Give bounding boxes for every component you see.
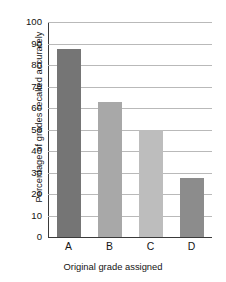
bar-chart: Percentage of grades recalled accurately… (0, 0, 226, 282)
gridline (48, 44, 212, 45)
x-tick-label: B (89, 240, 130, 253)
plot-area (48, 22, 212, 237)
y-tick-label: 80 (0, 60, 42, 70)
y-tick-label: 20 (0, 189, 42, 199)
x-tick-label: A (48, 240, 89, 253)
y-tick-label: 60 (0, 103, 42, 113)
y-tick-label: 0 (0, 232, 42, 242)
x-axis-baseline (48, 237, 212, 238)
bar-c (139, 130, 163, 238)
y-tick-label: 50 (0, 125, 42, 135)
bar-d (180, 178, 204, 237)
bar-a (57, 49, 81, 237)
x-tick-label: D (171, 240, 212, 253)
gridline (48, 22, 212, 23)
x-axis-title: Original grade assigned (0, 261, 226, 272)
y-axis-tick-labels: 0102030405060708090100 (0, 0, 46, 282)
x-axis-tick-labels: ABCD (48, 240, 212, 256)
x-tick-label: C (130, 240, 171, 253)
y-tick-label: 10 (0, 211, 42, 221)
y-tick-label: 40 (0, 146, 42, 156)
y-tick-label: 30 (0, 168, 42, 178)
y-tick-label: 90 (0, 39, 42, 49)
y-tick-label: 100 (0, 17, 42, 27)
bar-b (98, 102, 122, 237)
y-tick-label: 70 (0, 82, 42, 92)
